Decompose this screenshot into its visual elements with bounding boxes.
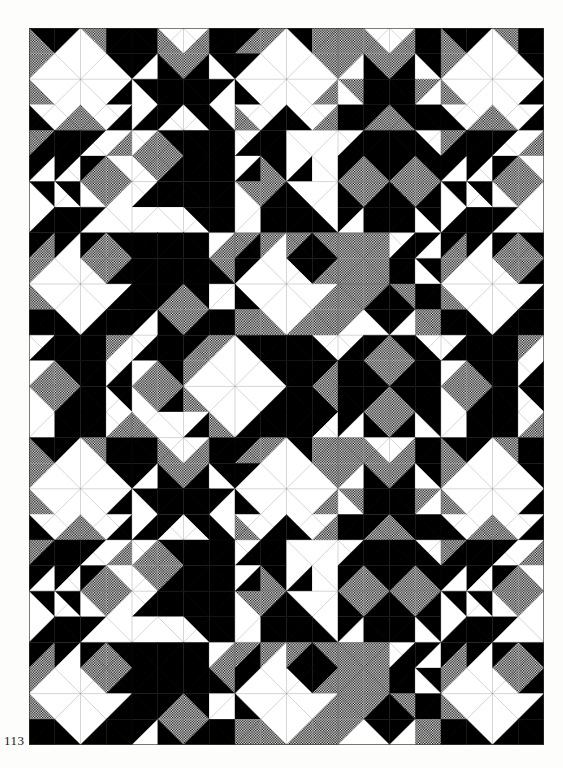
page-number: 113 [4,733,25,749]
book-page: 113 [0,0,563,768]
geometric-pattern-canvas [29,28,544,745]
pattern-plate [29,28,544,745]
